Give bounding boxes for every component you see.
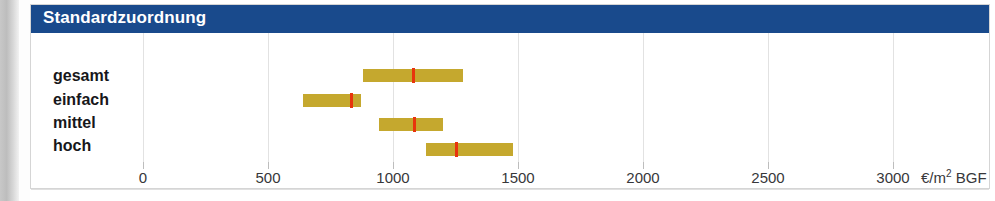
gridline-2000 bbox=[643, 33, 644, 162]
category-label-hoch: hoch bbox=[53, 138, 91, 154]
chart-x-axis-baseline bbox=[31, 189, 989, 190]
chart-title: Standardzuordnung bbox=[43, 8, 206, 28]
axis-tick-label-500: 500 bbox=[255, 169, 280, 186]
axis-tick-2500 bbox=[768, 162, 769, 169]
chart-x-axis-unit-label: €/m2 BGF bbox=[921, 169, 987, 186]
marker-hoch bbox=[455, 142, 458, 157]
axis-tick-label-3000: 3000 bbox=[876, 169, 909, 186]
gridline-1500 bbox=[518, 33, 519, 162]
marker-gesamt bbox=[412, 68, 415, 83]
axis-tick-0 bbox=[143, 162, 144, 169]
page-scan-edge-gap bbox=[19, 0, 30, 201]
gridline-500 bbox=[268, 33, 269, 162]
gridline-3000 bbox=[893, 33, 894, 162]
page-container: Standardzuordnung gesamteinfachmittelhoc… bbox=[0, 0, 995, 201]
gridline-1000 bbox=[393, 33, 394, 162]
axis-tick-1000 bbox=[393, 162, 394, 169]
axis-tick-500 bbox=[268, 162, 269, 169]
marker-einfach bbox=[350, 93, 353, 108]
chart-x-axis: 050010001500200025003000 €/m2 BGF bbox=[31, 162, 989, 190]
category-label-gesamt: gesamt bbox=[53, 68, 109, 84]
range-bar-einfach bbox=[303, 94, 361, 107]
range-bar-gesamt bbox=[363, 69, 463, 82]
chart-figure: Standardzuordnung gesamteinfachmittelhoc… bbox=[30, 4, 990, 189]
axis-tick-label-1000: 1000 bbox=[376, 169, 409, 186]
page-scan-edge-left bbox=[0, 0, 19, 201]
chart-plot-area: gesamteinfachmittelhoch bbox=[31, 33, 989, 162]
gridline-0 bbox=[143, 33, 144, 162]
chart-title-bar: Standardzuordnung bbox=[31, 5, 989, 33]
category-label-mittel: mittel bbox=[53, 115, 96, 131]
axis-tick-1500 bbox=[518, 162, 519, 169]
marker-mittel bbox=[413, 117, 416, 132]
axis-tick-label-2500: 2500 bbox=[751, 169, 784, 186]
axis-tick-label-2000: 2000 bbox=[626, 169, 659, 186]
axis-unit-exponent: 2 bbox=[946, 168, 952, 179]
axis-tick-2000 bbox=[643, 162, 644, 169]
range-bar-mittel bbox=[379, 118, 443, 131]
axis-tick-label-0: 0 bbox=[139, 169, 147, 186]
range-bar-hoch bbox=[426, 143, 514, 156]
gridline-2500 bbox=[768, 33, 769, 162]
axis-tick-3000 bbox=[893, 162, 894, 169]
category-label-einfach: einfach bbox=[53, 92, 109, 108]
axis-tick-label-1500: 1500 bbox=[501, 169, 534, 186]
